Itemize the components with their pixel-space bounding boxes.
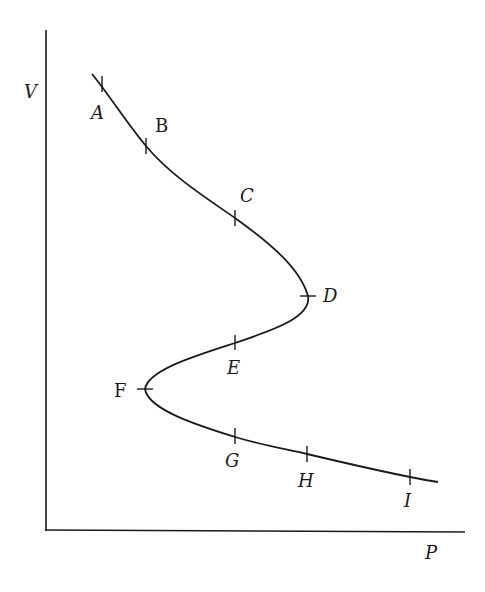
- y-axis-label: V: [24, 83, 37, 101]
- point-label-g: G: [225, 452, 239, 470]
- x-axis: [45, 530, 465, 532]
- point-label-e: E: [227, 359, 240, 377]
- point-label-c: C: [240, 187, 254, 205]
- point-label-b: B: [155, 117, 168, 135]
- point-label-h: H: [298, 472, 314, 490]
- pv-diagram: V P A B C D E F G H I: [0, 0, 485, 592]
- isotherm-curve: [92, 74, 438, 482]
- point-label-f: F: [114, 382, 127, 400]
- x-axis-label: P: [425, 544, 437, 562]
- diagram-plot: [0, 0, 485, 592]
- point-label-i: I: [404, 492, 411, 510]
- point-label-a: A: [91, 104, 104, 122]
- point-label-d: D: [323, 287, 337, 305]
